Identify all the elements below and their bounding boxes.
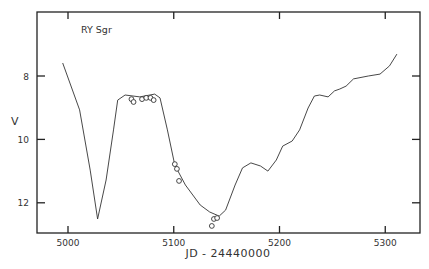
observation-point [151,98,156,103]
x-tick-label: 5100 [162,238,185,248]
y-tick-label: 12 [18,198,29,208]
y-axis-label: V [11,115,19,128]
x-axis-ticks: 5000510052005300 [57,12,397,248]
observation-point [215,216,220,221]
light-curve-chart: 5000510052005300 81012 RY Sgr V JD - 244… [0,0,429,269]
y-tick-label: 10 [18,135,30,145]
chart-title: RY Sgr [81,24,112,35]
x-axis-label: JD - 24440000 [184,247,270,260]
observation-points [129,95,219,228]
observation-point [177,179,182,184]
x-tick-label: 5000 [57,238,80,248]
x-tick-label: 5200 [268,238,291,248]
observation-point [175,166,180,171]
y-tick-label: 8 [23,72,29,82]
observation-point [131,100,136,105]
y-axis-ticks: 81012 [18,72,420,209]
observation-point [172,162,177,167]
light-curve-line [63,54,397,219]
x-tick-label: 5300 [374,238,397,248]
observation-point [209,224,214,229]
